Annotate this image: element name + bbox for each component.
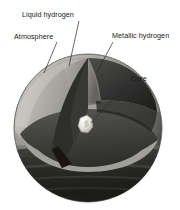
label-liquid-hydrogen: Liquid hydrogen — [22, 11, 74, 18]
planet-sphere — [0, 54, 178, 205]
jupiter-cutaway-figure: Liquid hydrogen Atmosphere Metallic hydr… — [0, 0, 180, 210]
label-atmosphere: Atmosphere — [14, 33, 53, 40]
label-metallic-hydrogen: Metallic hydrogen — [112, 32, 169, 39]
label-core: Core — [131, 75, 147, 82]
